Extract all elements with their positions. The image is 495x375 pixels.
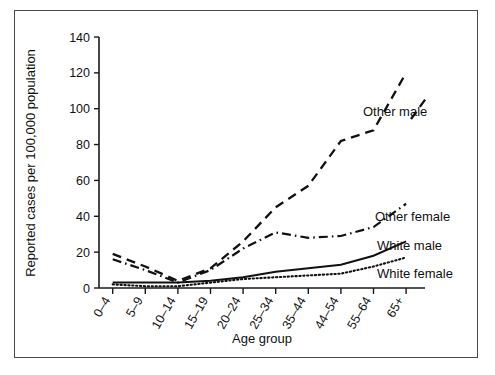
y-axis-title: Reported cases per 100,000 population (23, 49, 38, 277)
x-axis-title: Age group (232, 331, 292, 346)
y-tick-label: 120 (69, 66, 90, 80)
y-tick-label: 0 (83, 282, 90, 296)
y-axis-ticks: 020406080100120140 (69, 31, 99, 296)
x-tick-label: 20–24 (214, 294, 244, 331)
x-tick-label: 35–44 (279, 294, 309, 331)
x-tick-label: 65+ (384, 295, 407, 320)
x-axis-ticks: 0–45–910–1415–1920–2425–3435–4444–5455–6… (91, 288, 407, 332)
legend-label-other-male: Other male (363, 104, 427, 119)
series-line-white-male (113, 241, 406, 282)
y-tick-label: 100 (69, 102, 90, 116)
line-chart: 020406080100120140 0–45–910–1415–1920–24… (15, 11, 479, 359)
x-tick-label: 25–34 (247, 294, 277, 331)
y-tick-label: 20 (76, 246, 90, 260)
legend-label-white-male: White male (377, 238, 442, 253)
y-tick-label: 60 (76, 174, 90, 188)
legend-label-other-female: Other female (375, 209, 450, 224)
x-tick-label: 0–4 (91, 294, 114, 319)
x-tick-label: 44–54 (312, 294, 342, 331)
x-tick-label: 5–9 (123, 294, 146, 319)
x-tick-label: 55–64 (345, 294, 375, 331)
x-tick-label: 10–14 (149, 294, 179, 331)
y-tick-label: 140 (69, 31, 90, 45)
y-tick-label: 40 (76, 210, 90, 224)
x-tick-label: 15–19 (182, 294, 212, 331)
legend-label-white-female: White female (377, 266, 453, 281)
chart-frame: 020406080100120140 0–45–910–1415–1920–24… (14, 10, 478, 358)
y-tick-label: 80 (76, 138, 90, 152)
